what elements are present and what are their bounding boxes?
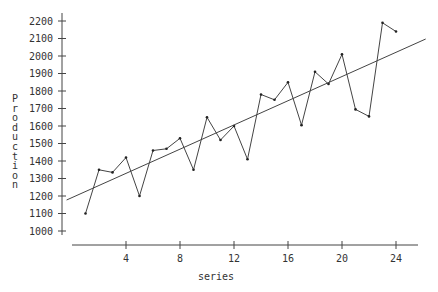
x-axis: 4812162024 (72, 241, 418, 264)
y-tick-label: 1100 (29, 208, 53, 219)
x-tick-label: 16 (282, 253, 294, 264)
data-point (395, 30, 398, 33)
data-point (98, 168, 101, 171)
y-tick-label: 1800 (29, 86, 53, 97)
data-point (354, 108, 357, 111)
y-tick-label: 1900 (29, 68, 53, 79)
y-tick-label: 1600 (29, 121, 53, 132)
data-point (138, 195, 141, 198)
data-point (206, 116, 209, 119)
data-point (341, 53, 344, 56)
data-point (381, 21, 384, 24)
data-line (86, 23, 397, 214)
y-tick-label: 2000 (29, 51, 53, 62)
x-axis-label: series (198, 271, 234, 282)
data-point (314, 70, 317, 73)
data-point (260, 93, 263, 96)
y-axis: 1000110012001300140015001600170018001900… (29, 13, 66, 237)
data-point (165, 147, 168, 150)
y-tick-label: 1700 (29, 103, 53, 114)
data-point (368, 115, 371, 118)
y-tick-label: 1000 (29, 226, 53, 237)
data-point (300, 124, 303, 127)
data-point (246, 158, 249, 161)
x-tick-label: 12 (228, 253, 240, 264)
data-point (125, 156, 128, 159)
trend-line (67, 39, 426, 200)
data-point (287, 81, 290, 84)
x-tick-label: 24 (390, 253, 402, 264)
data-point (84, 212, 87, 215)
plot-area (67, 21, 426, 214)
x-tick-label: 20 (336, 253, 348, 264)
x-tick-label: 4 (123, 253, 129, 264)
data-point (179, 137, 182, 140)
data-point (273, 98, 276, 101)
chart: 1000110012001300140015001600170018001900… (0, 0, 438, 292)
data-point (219, 139, 222, 142)
y-tick-label: 2100 (29, 33, 53, 44)
y-tick-label: 1200 (29, 191, 53, 202)
y-tick-label: 1300 (29, 173, 53, 184)
y-tick-label: 1500 (29, 138, 53, 149)
x-tick-label: 8 (177, 253, 183, 264)
y-axis-label-letter: n (10, 179, 20, 190)
data-point (152, 149, 155, 152)
y-tick-label: 1400 (29, 156, 53, 167)
data-point (111, 171, 114, 174)
y-tick-label: 2200 (29, 16, 53, 27)
data-point (192, 168, 195, 171)
